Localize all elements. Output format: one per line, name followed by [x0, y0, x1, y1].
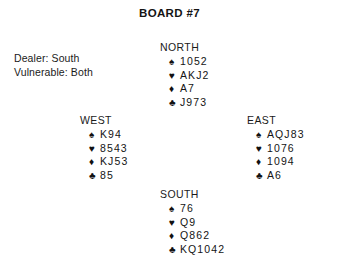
diamond-icon: ♦ [169, 229, 180, 243]
hand-west-clubs: 85 [100, 169, 114, 181]
hand-west-spades-row: ♠K94 [80, 128, 128, 142]
vulnerable-text: Vulnerable: Both [14, 65, 93, 79]
heart-icon: ♥ [169, 216, 180, 230]
hand-south-label: SOUTH [160, 188, 225, 202]
hand-east-hearts: 1076 [267, 142, 295, 154]
hand-east-clubs-row: ♣A6 [247, 169, 305, 183]
heart-icon: ♥ [169, 69, 180, 83]
page-title: BOARD #7 [0, 7, 339, 19]
spade-icon: ♠ [256, 128, 267, 142]
club-icon: ♣ [89, 169, 100, 183]
hand-north-clubs: J973 [180, 96, 207, 108]
hand-north-spades-row: ♠1052 [160, 55, 210, 69]
club-icon: ♣ [169, 243, 180, 257]
hand-south: SOUTH ♠76 ♥Q9 ♦Q862 ♣KQ1042 [160, 188, 225, 256]
hand-south-diamonds: Q862 [180, 229, 210, 241]
diamond-icon: ♦ [256, 155, 267, 169]
hand-west-diamonds: KJ53 [100, 155, 128, 167]
hand-west-label: WEST [80, 114, 128, 128]
hand-west: WEST ♠K94 ♥8543 ♦KJ53 ♣85 [80, 114, 128, 182]
hand-south-spades-row: ♠76 [160, 202, 225, 216]
hand-north-hearts: AKJ2 [180, 69, 210, 81]
spade-icon: ♠ [169, 202, 180, 216]
hand-west-spades: K94 [100, 128, 122, 140]
hand-north: NORTH ♠1052 ♥AKJ2 ♦A7 ♣J973 [160, 41, 210, 109]
diamond-icon: ♦ [89, 155, 100, 169]
hand-north-hearts-row: ♥AKJ2 [160, 69, 210, 83]
hand-south-clubs: KQ1042 [180, 243, 225, 255]
hand-east-spades: AQJ83 [267, 128, 305, 140]
diamond-icon: ♦ [169, 82, 180, 96]
bridge-board-diagram: BOARD #7 Dealer: South Vulnerable: Both … [0, 0, 339, 266]
club-icon: ♣ [256, 169, 267, 183]
hand-east-clubs: A6 [267, 169, 282, 181]
hand-south-clubs-row: ♣KQ1042 [160, 243, 225, 257]
club-icon: ♣ [169, 96, 180, 110]
hand-east-label: EAST [247, 114, 305, 128]
hand-west-hearts-row: ♥8543 [80, 142, 128, 156]
hand-north-spades: 1052 [180, 55, 208, 67]
spade-icon: ♠ [89, 128, 100, 142]
heart-icon: ♥ [256, 142, 267, 156]
spade-icon: ♠ [169, 55, 180, 69]
hand-south-spades: 76 [180, 202, 194, 214]
hand-west-diamonds-row: ♦KJ53 [80, 155, 128, 169]
hand-north-diamonds-row: ♦A7 [160, 82, 210, 96]
hand-north-clubs-row: ♣J973 [160, 96, 210, 110]
hand-east: EAST ♠AQJ83 ♥1076 ♦1094 ♣A6 [247, 114, 305, 182]
hand-south-diamonds-row: ♦Q862 [160, 229, 225, 243]
hand-south-hearts-row: ♥Q9 [160, 216, 225, 230]
heart-icon: ♥ [89, 142, 100, 156]
hand-east-spades-row: ♠AQJ83 [247, 128, 305, 142]
hand-east-diamonds: 1094 [267, 155, 295, 167]
hand-west-clubs-row: ♣85 [80, 169, 128, 183]
dealer-text: Dealer: South [14, 51, 93, 65]
hand-east-diamonds-row: ♦1094 [247, 155, 305, 169]
hand-west-hearts: 8543 [100, 142, 128, 154]
hand-north-diamonds: A7 [180, 82, 195, 94]
hand-north-label: NORTH [160, 41, 210, 55]
board-conditions: Dealer: South Vulnerable: Both [14, 51, 93, 79]
hand-east-hearts-row: ♥1076 [247, 142, 305, 156]
hand-south-hearts: Q9 [180, 216, 196, 228]
